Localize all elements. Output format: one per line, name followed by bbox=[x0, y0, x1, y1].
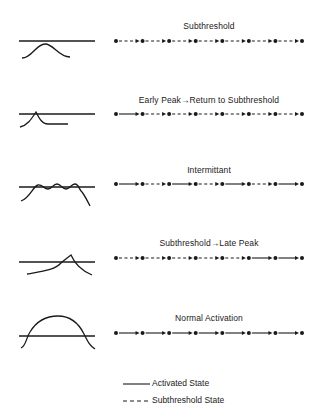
arrowhead-icon bbox=[162, 39, 166, 43]
state-node bbox=[300, 256, 304, 260]
arrowhead-icon bbox=[295, 112, 299, 116]
arrowhead-icon bbox=[162, 256, 166, 260]
state-node bbox=[167, 182, 171, 186]
arrowhead-icon bbox=[242, 182, 246, 186]
arrowhead-icon bbox=[189, 39, 193, 43]
waveform-early-peak bbox=[19, 112, 95, 127]
row-title: Normal Activation bbox=[175, 313, 243, 323]
row-title: Early Peak→Return to Subthreshold bbox=[139, 95, 279, 105]
state-node bbox=[247, 39, 251, 43]
arrowhead-icon bbox=[268, 112, 272, 116]
arrowhead-icon bbox=[189, 112, 193, 116]
waveform-subthreshold bbox=[19, 41, 95, 58]
state-node bbox=[220, 182, 224, 186]
arrowhead-icon bbox=[295, 331, 299, 335]
state-node bbox=[194, 256, 198, 260]
state-node bbox=[167, 331, 171, 335]
arrowhead-icon bbox=[242, 256, 246, 260]
state-node bbox=[114, 256, 118, 260]
state-node bbox=[114, 182, 118, 186]
state-node bbox=[141, 331, 145, 335]
state-node bbox=[194, 112, 198, 116]
chain-row bbox=[114, 39, 304, 43]
arrowhead-icon bbox=[136, 256, 140, 260]
chain-row bbox=[114, 256, 304, 260]
state-node bbox=[300, 182, 304, 186]
state-node bbox=[247, 182, 251, 186]
state-node bbox=[114, 331, 118, 335]
row-title: Intermittant bbox=[187, 165, 231, 175]
state-node bbox=[273, 39, 277, 43]
state-node bbox=[167, 112, 171, 116]
waveform-intermittent bbox=[19, 184, 95, 206]
state-node bbox=[220, 331, 224, 335]
chain-row bbox=[114, 112, 304, 116]
legend-lines bbox=[123, 384, 150, 401]
state-node bbox=[220, 39, 224, 43]
state-node bbox=[273, 112, 277, 116]
arrowhead-icon bbox=[136, 112, 140, 116]
arrowhead-icon bbox=[215, 39, 219, 43]
arrowhead-icon bbox=[215, 182, 219, 186]
waveform-normal-activation bbox=[19, 316, 95, 349]
arrowhead-icon bbox=[136, 182, 140, 186]
arrowhead-icon bbox=[295, 39, 299, 43]
row-title: Subthreshold→Late Peak bbox=[159, 238, 258, 248]
arrowhead-icon bbox=[215, 331, 219, 335]
waveform-late-peak bbox=[19, 255, 95, 275]
arrowhead-icon bbox=[162, 182, 166, 186]
arrowhead-icon bbox=[295, 182, 299, 186]
state-node bbox=[300, 39, 304, 43]
state-node bbox=[273, 182, 277, 186]
state-node bbox=[141, 256, 145, 260]
arrowhead-icon bbox=[215, 256, 219, 260]
arrowhead-icon bbox=[242, 112, 246, 116]
state-diagram bbox=[0, 0, 331, 417]
state-node bbox=[194, 182, 198, 186]
state-node bbox=[300, 331, 304, 335]
state-node bbox=[141, 182, 145, 186]
arrowhead-icon bbox=[268, 256, 272, 260]
arrowhead-icon bbox=[162, 112, 166, 116]
state-chains bbox=[114, 39, 304, 335]
arrowhead-icon bbox=[268, 182, 272, 186]
arrowhead-icon bbox=[189, 256, 193, 260]
arrowhead-icon bbox=[268, 331, 272, 335]
arrowhead-icon bbox=[242, 39, 246, 43]
arrowhead-icon bbox=[189, 182, 193, 186]
arrowhead-icon bbox=[189, 331, 193, 335]
arrowhead-icon bbox=[162, 331, 166, 335]
state-node bbox=[273, 331, 277, 335]
state-node bbox=[300, 112, 304, 116]
state-node bbox=[220, 112, 224, 116]
state-node bbox=[273, 256, 277, 260]
legend-subthreshold-label: Subthreshold State bbox=[152, 395, 224, 405]
state-node bbox=[247, 112, 251, 116]
state-node bbox=[194, 331, 198, 335]
state-node bbox=[141, 39, 145, 43]
state-node bbox=[220, 256, 224, 260]
state-node bbox=[247, 256, 251, 260]
arrowhead-icon bbox=[215, 112, 219, 116]
arrowhead-icon bbox=[295, 256, 299, 260]
chain-row bbox=[114, 182, 304, 186]
chain-row bbox=[114, 331, 304, 335]
state-node bbox=[167, 39, 171, 43]
arrowhead-icon bbox=[136, 39, 140, 43]
state-node bbox=[194, 39, 198, 43]
arrowhead-icon bbox=[268, 39, 272, 43]
state-node bbox=[141, 112, 145, 116]
arrowhead-icon bbox=[136, 331, 140, 335]
legend-activated-label: Activated State bbox=[152, 378, 209, 388]
row-title: Subthreshold bbox=[183, 21, 234, 31]
state-node bbox=[114, 39, 118, 43]
state-node bbox=[247, 331, 251, 335]
state-node bbox=[167, 256, 171, 260]
arrowhead-icon bbox=[242, 331, 246, 335]
state-node bbox=[114, 112, 118, 116]
